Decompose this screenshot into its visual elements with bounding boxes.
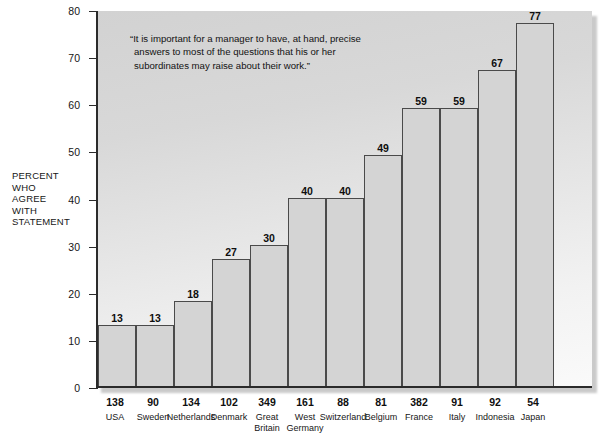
x-axis-sample-size: 81 <box>362 396 400 408</box>
y-axis-tick <box>89 152 98 153</box>
bar[interactable] <box>288 198 326 387</box>
y-axis-tick-label: 70 <box>50 52 80 64</box>
bar[interactable] <box>364 155 402 386</box>
y-axis-tick <box>89 247 98 248</box>
bar-value-label: 40 <box>288 185 326 197</box>
y-axis-title-line: PERCENT <box>12 170 92 182</box>
x-axis-sample-size: 161 <box>286 396 324 408</box>
bar[interactable] <box>174 301 212 386</box>
x-axis-sample-size: 88 <box>324 396 362 408</box>
bar[interactable] <box>402 108 440 386</box>
x-axis-sample-size: 90 <box>134 396 172 408</box>
y-axis-tick-label: 10 <box>50 335 80 347</box>
y-axis-title-line: WHO <box>12 182 92 194</box>
y-axis-tick <box>89 341 98 342</box>
x-axis-sample-size: 349 <box>248 396 286 408</box>
x-axis-sample-size: 91 <box>438 396 476 408</box>
bar[interactable] <box>212 259 250 386</box>
plot-area: “It is important for a manager to have, … <box>96 11 592 388</box>
bar-value-label: 13 <box>98 312 136 324</box>
y-axis-tick-label: 20 <box>50 288 80 300</box>
x-axis-sample-size: 102 <box>210 396 248 408</box>
y-axis-tick-label: 80 <box>50 5 80 17</box>
y-axis-tick-label: 30 <box>50 241 80 253</box>
y-axis-tick-label: 50 <box>50 146 80 158</box>
bar[interactable] <box>516 23 554 386</box>
bar[interactable] <box>440 108 478 386</box>
bar-value-label: 18 <box>174 288 212 300</box>
bar-value-label: 40 <box>326 185 364 197</box>
bar-value-label: 13 <box>136 312 174 324</box>
bar-value-label: 49 <box>364 142 402 154</box>
x-axis-sample-size: 54 <box>514 396 552 408</box>
x-axis-sample-size: 382 <box>400 396 438 408</box>
bar-value-label: 77 <box>516 10 554 22</box>
bar[interactable] <box>250 245 288 386</box>
bar-value-label: 30 <box>250 232 288 244</box>
y-axis-title-line: STATEMENT <box>12 216 92 228</box>
bar-chart-figure: PERCENT WHO AGREE WITH STATEMENT “It is … <box>0 0 612 442</box>
quote-annotation: “It is important for a manager to have, … <box>134 32 380 72</box>
y-axis-tick-label: 40 <box>50 194 80 206</box>
bar[interactable] <box>326 198 364 387</box>
y-axis-tick <box>89 200 98 201</box>
x-axis-sample-size: 92 <box>476 396 514 408</box>
y-axis-tick <box>89 11 98 12</box>
x-axis-sample-size: 134 <box>172 396 210 408</box>
y-axis-title-line: WITH <box>12 205 92 217</box>
bar[interactable] <box>136 325 174 386</box>
y-axis-tick <box>89 105 98 106</box>
y-axis-tick-label: 60 <box>50 99 80 111</box>
y-axis-tick <box>89 388 98 389</box>
y-axis-tick <box>89 294 98 295</box>
bar-value-label: 67 <box>478 57 516 69</box>
bar-value-label: 59 <box>402 95 440 107</box>
y-axis-tick-label: 0 <box>50 382 80 394</box>
x-axis-country-label: Japan <box>508 412 558 423</box>
x-axis-sample-size: 138 <box>96 396 134 408</box>
y-axis-tick <box>89 58 98 59</box>
x-axis-country-label-line: Japan <box>508 412 558 423</box>
bar[interactable] <box>478 70 516 386</box>
bar-value-label: 27 <box>212 246 250 258</box>
x-axis-country-label-line: Germany <box>280 423 330 434</box>
bar-value-label: 59 <box>440 95 478 107</box>
bar[interactable] <box>98 325 136 386</box>
